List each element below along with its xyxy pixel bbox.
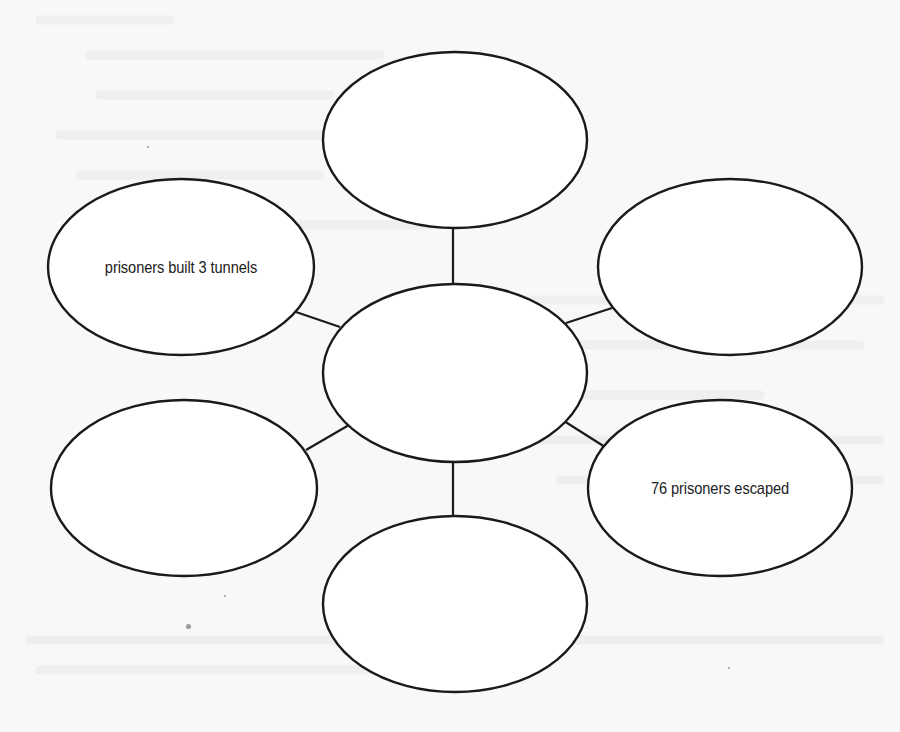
node-center[interactable] — [323, 284, 587, 462]
node-lower-left[interactable] — [51, 400, 317, 576]
worksheet-page: prisoners built 3 tunnels 76 prisoners e… — [0, 0, 900, 732]
connector-lower-left — [306, 425, 349, 450]
node-lower-right-label: 76 prisoners escaped — [651, 479, 789, 499]
connector-lower-right — [564, 421, 605, 447]
paper-speck — [147, 146, 149, 148]
paper-speck — [728, 667, 730, 669]
node-top[interactable] — [323, 52, 587, 228]
node-bottom[interactable] — [323, 516, 587, 692]
web-diagram — [0, 0, 900, 732]
node-upper-right[interactable] — [598, 179, 862, 355]
paper-speck — [224, 595, 226, 597]
connector-upper-right — [566, 308, 612, 323]
connector-upper-left — [296, 312, 340, 327]
paper-speck — [186, 624, 191, 629]
node-upper-left-label: prisoners built 3 tunnels — [105, 258, 257, 278]
